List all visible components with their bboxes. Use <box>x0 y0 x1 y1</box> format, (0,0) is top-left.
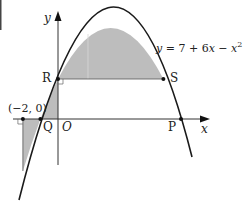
point-q <box>38 117 42 121</box>
point-p <box>179 117 183 121</box>
point-s <box>161 77 165 81</box>
label-s: S <box>170 71 178 85</box>
origin-label: O <box>62 120 72 134</box>
margin-bar <box>0 0 2 30</box>
label-q: Q <box>43 120 53 134</box>
equation-label: y = 7 + 6x − x2 <box>155 40 242 55</box>
y-axis-arrow-icon <box>55 11 62 21</box>
label-neg2-point: (−2, 0) <box>8 102 47 115</box>
label-p: P <box>168 120 176 134</box>
x-axis-label: x <box>201 122 208 136</box>
shaded-region-lower <box>23 119 41 171</box>
y-axis-label: y <box>43 11 51 25</box>
point-neg2 <box>21 117 25 121</box>
point-r <box>56 77 60 81</box>
parabola-diagram: y x O R S Q P (−2, 0) y = 7 + 6x − x2 <box>0 0 243 203</box>
label-r: R <box>42 71 52 85</box>
